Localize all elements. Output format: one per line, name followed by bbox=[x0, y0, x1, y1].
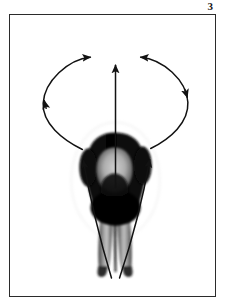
right-foot bbox=[123, 266, 133, 277]
figure-frame-border: Grayscale photograph of a person seen fr… bbox=[9, 14, 216, 297]
left-swing-arc-mid-arrowhead bbox=[44, 101, 46, 109]
figure-caption bbox=[0, 0, 1, 1]
head-group bbox=[96, 147, 132, 196]
figure-page: 3 bbox=[0, 0, 225, 307]
right-swing-arc bbox=[141, 57, 188, 148]
left-arm-mass bbox=[79, 148, 97, 186]
figure-number-label: 3 bbox=[208, 0, 214, 13]
figure-illustration-canvas bbox=[10, 15, 215, 296]
left-swing-arc bbox=[43, 57, 90, 149]
left-foot bbox=[97, 266, 107, 277]
